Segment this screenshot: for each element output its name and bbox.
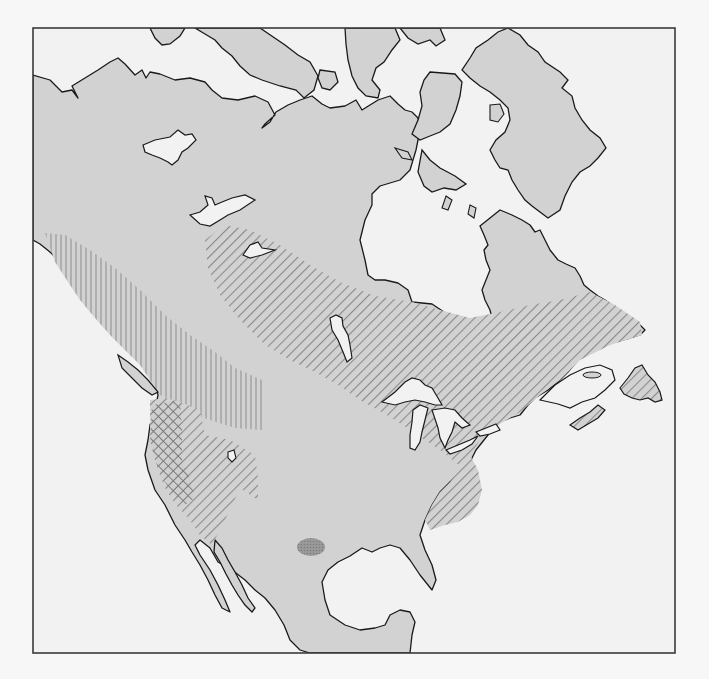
- map: [0, 0, 709, 679]
- zone-texas-spot: [297, 538, 325, 556]
- land-anticosti: [583, 372, 601, 378]
